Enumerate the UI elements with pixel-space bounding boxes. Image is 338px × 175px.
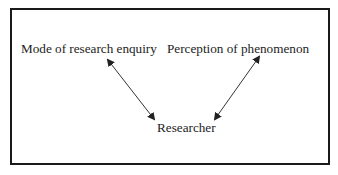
node-researcher: Researcher xyxy=(157,121,216,134)
diagram-frame xyxy=(10,8,330,165)
node-mode-of-research-enquiry: Mode of research enquiry xyxy=(21,42,157,55)
node-perception-of-phenomenon: Perception of phenomenon xyxy=(167,42,309,55)
